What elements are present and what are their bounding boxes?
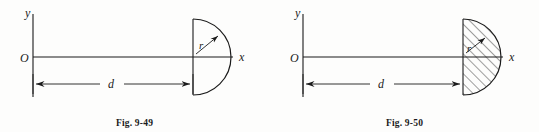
axis-label-y: y [294,6,301,20]
figure-panel-fig-9-50: y O x r d Fig. 9-50 [270,0,539,132]
distance-label: d [108,77,115,91]
figure-sheet: y O x r d Fig. 9-49 [0,0,539,132]
origin-label: O [20,51,29,65]
axis-label-x: x [238,50,245,64]
figure-panel-fig-9-49: y O x r d Fig. 9-49 [0,0,269,132]
axis-label-y: y [24,6,31,20]
axis-label-x: x [508,50,515,64]
figure-caption-fig-9-49: Fig. 9-49 [0,118,269,128]
radius-label: r [199,39,204,51]
figure-diagram-fig-9-50: y O x r d [270,0,539,132]
semicircle-hatch-fill [463,19,501,95]
figure-diagram-fig-9-49: y O x r d [0,0,269,132]
figure-caption-fig-9-50: Fig. 9-50 [270,118,539,128]
distance-label: d [378,77,385,91]
radius-label: r [467,42,472,54]
origin-label: O [290,51,299,65]
